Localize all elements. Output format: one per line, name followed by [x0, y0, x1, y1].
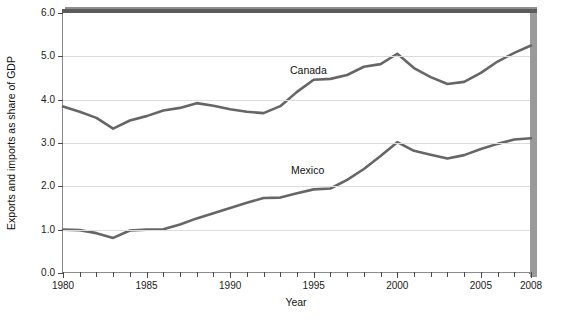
line-chart-figure: 0.01.02.03.04.05.06.01980198519901995200…	[0, 0, 564, 329]
y-axis-tick	[58, 13, 63, 14]
y-axis-tick-label: 6.0	[41, 8, 55, 18]
x-axis-tick	[63, 272, 64, 278]
x-axis-tick	[130, 272, 131, 277]
x-axis-tick	[397, 272, 398, 278]
y-axis-tick	[58, 56, 63, 57]
x-axis-tick	[213, 272, 214, 277]
y-gridline	[63, 186, 530, 187]
x-axis-tick	[347, 272, 348, 277]
y-axis-tick-label: 3.0	[41, 138, 55, 148]
x-axis-tick-label: 1980	[52, 281, 74, 291]
y-axis-tick-label: 4.0	[41, 95, 55, 105]
y-gridline	[63, 230, 530, 231]
x-axis-tick	[364, 272, 365, 277]
series-label-canada: Canada	[290, 64, 327, 76]
x-axis-tick-label: 1990	[219, 281, 241, 291]
y-gridline	[63, 143, 530, 144]
x-axis-tick	[447, 272, 448, 277]
y-axis-tick-label: 1.0	[41, 225, 55, 235]
x-axis-tick-label: 2008	[520, 281, 542, 291]
x-axis-tick	[414, 272, 415, 277]
y-axis-tick	[58, 230, 63, 231]
y-gridline	[63, 100, 530, 101]
x-axis-tick	[330, 272, 331, 277]
series-line-canada	[63, 46, 531, 129]
x-axis-tick	[381, 272, 382, 277]
series-line-mexico	[63, 138, 531, 238]
x-axis-tick	[96, 272, 97, 277]
x-axis-tick	[264, 272, 265, 277]
y-gridline	[63, 56, 530, 57]
x-axis-tick	[197, 272, 198, 277]
x-axis-tick	[280, 272, 281, 277]
y-axis-tick	[58, 143, 63, 144]
x-axis-title: Year	[62, 296, 530, 308]
x-axis-tick	[147, 272, 148, 278]
x-axis-tick	[297, 272, 298, 277]
plot-area: 0.01.02.03.04.05.06.01980198519901995200…	[62, 13, 530, 273]
x-axis-tick	[180, 272, 181, 277]
plot-frame-right-face	[530, 13, 537, 277]
y-axis-tick-label: 0.0	[41, 268, 55, 278]
x-axis-tick-label: 1985	[135, 281, 157, 291]
x-axis-tick	[247, 272, 248, 277]
x-axis-tick-label: 2000	[386, 281, 408, 291]
x-axis-tick	[163, 272, 164, 277]
x-axis-tick-label: 1995	[303, 281, 325, 291]
x-axis-tick	[464, 272, 465, 277]
x-axis-tick	[531, 272, 532, 278]
x-axis-tick	[514, 272, 515, 277]
x-axis-tick-label: 2005	[470, 281, 492, 291]
x-axis-tick	[80, 272, 81, 277]
y-axis-tick	[58, 100, 63, 101]
x-axis-tick	[314, 272, 315, 278]
y-axis-title: Exports and imports as share of GDP	[4, 13, 18, 273]
y-axis-tick	[58, 186, 63, 187]
series-label-mexico: Mexico	[291, 164, 324, 176]
y-axis-tick-label: 2.0	[41, 181, 55, 191]
x-axis-tick	[230, 272, 231, 278]
y-axis-tick-label: 5.0	[41, 51, 55, 61]
x-axis-tick	[431, 272, 432, 277]
x-axis-tick	[498, 272, 499, 277]
x-axis-tick	[481, 272, 482, 278]
x-axis-tick	[113, 272, 114, 277]
